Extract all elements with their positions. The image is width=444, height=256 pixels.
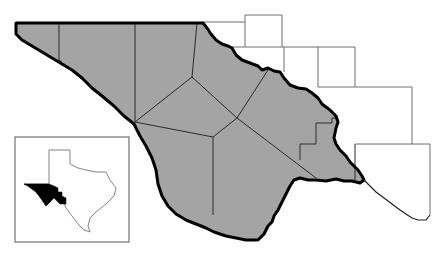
rio-grande-continuation — [364, 180, 430, 220]
locator-inset — [15, 137, 129, 242]
region-map — [0, 0, 444, 256]
